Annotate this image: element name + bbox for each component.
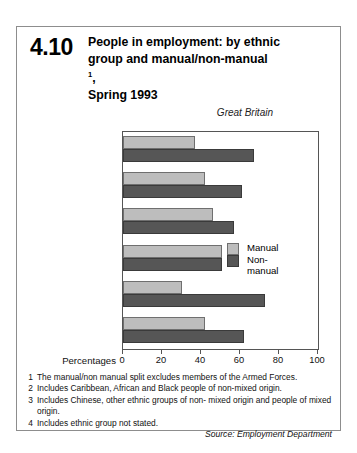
legend-swatch-nonmanual-icon [227, 255, 239, 267]
x-axis-tick-labels: 020406080100 [122, 355, 318, 367]
legend-label-nonmanual: Non- manual [247, 254, 278, 276]
chart-legend: Manual Non- manual [227, 243, 313, 255]
bars-container [123, 132, 318, 349]
bar-group-white [123, 168, 318, 204]
region-caption-text: Great Britain [217, 107, 341, 118]
source-note: Source: Employment Department [24, 429, 332, 439]
bar-group-black [123, 204, 318, 240]
figure-page: 4.10 People in employment: by ethnic gro… [0, 0, 357, 453]
bar-nonmanual-white [123, 185, 242, 198]
x-tick-label-80: 80 [273, 355, 283, 365]
legend-swatch-manual-icon [227, 243, 239, 255]
footnote-1: 1 The manual/non manual split excludes m… [24, 372, 332, 383]
figure-header: 4.10 People in employment: by ethnic gro… [16, 30, 341, 92]
title-line-3: Spring 1993 [88, 88, 158, 102]
bar-nonmanual-indian [123, 149, 254, 162]
x-axis-ticks [122, 349, 318, 354]
bar-manual-pakistani-bangladeshi [123, 245, 222, 258]
bar-group-all-ethnic-groups [123, 313, 318, 349]
footnote-2: 2 Includes Caribbean, African and Black … [24, 383, 332, 394]
bar-nonmanual-other-or-mixed [123, 294, 265, 307]
footnote-4: 4 Includes ethnic group not stated. [24, 418, 332, 429]
x-tick-20 [161, 349, 162, 354]
x-axis-title: Percentages [40, 355, 116, 366]
x-tick-label-40: 40 [195, 355, 205, 365]
bar-nonmanual-all-ethnic-groups [123, 330, 244, 343]
bar-group-other-or-mixed [123, 277, 318, 313]
x-tick-40 [200, 349, 201, 354]
bar-nonmanual-pakistani-bangladeshi [123, 258, 222, 271]
bar-manual-other-or-mixed [123, 281, 182, 294]
legend-row-manual: Manual Non- manual [227, 243, 313, 255]
title-footnote-marker: 1 [88, 70, 92, 79]
x-tick-60 [239, 349, 240, 354]
bar-chart-plot [122, 131, 319, 350]
bar-manual-black [123, 208, 213, 221]
bar-manual-white [123, 172, 205, 185]
x-tick-0 [122, 349, 123, 354]
footnote-3: 3 Includes Chinese, other ethnic groups … [24, 395, 332, 418]
x-tick-label-60: 60 [234, 355, 244, 365]
bar-manual-all-ethnic-groups [123, 317, 205, 330]
region-caption: Great Britain [0, 107, 341, 118]
bar-group-indian [123, 132, 318, 168]
title-line-1: People in employment: by ethnic [88, 34, 326, 51]
figure-number: 4.10 [30, 36, 73, 59]
footnotes: 1 The manual/non manual split excludes m… [24, 372, 332, 429]
x-tick-label-20: 20 [156, 355, 166, 365]
x-tick-label-0: 0 [119, 355, 124, 365]
title-line-2: group and manual/non-manual [88, 51, 326, 68]
bar-nonmanual-black [123, 221, 234, 234]
page-title: People in employment: by ethnic group an… [88, 34, 326, 103]
x-tick-100 [317, 349, 318, 354]
bar-manual-indian [123, 136, 195, 149]
x-tick-label-100: 100 [309, 355, 325, 365]
x-tick-80 [278, 349, 279, 354]
legend-label-manual: Manual [247, 242, 278, 253]
